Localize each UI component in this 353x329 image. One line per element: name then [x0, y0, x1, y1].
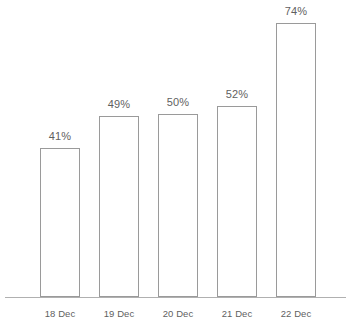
x-axis-line — [5, 297, 346, 298]
bar — [158, 114, 198, 297]
bar-value-label: 52% — [207, 88, 267, 100]
bar-value-label: 41% — [30, 130, 90, 142]
bar — [40, 148, 80, 297]
bar — [276, 23, 316, 297]
bar-value-label: 74% — [266, 5, 326, 17]
bar-chart: 41%49%50%52%74% 18 Dec19 Dec20 Dec21 Dec… — [0, 0, 353, 329]
bar-value-label: 50% — [148, 96, 208, 108]
x-axis-tick-label: 21 Dec — [207, 308, 267, 319]
bar-value-label: 49% — [89, 98, 149, 110]
bar — [217, 106, 257, 297]
x-axis-tick-label: 20 Dec — [148, 308, 208, 319]
plot-area: 41%49%50%52%74% 18 Dec19 Dec20 Dec21 Dec… — [0, 0, 353, 329]
x-axis-tick-label: 18 Dec — [30, 308, 90, 319]
bar — [99, 116, 139, 297]
x-axis-tick-label: 22 Dec — [266, 308, 326, 319]
x-axis-tick-label: 19 Dec — [89, 308, 149, 319]
